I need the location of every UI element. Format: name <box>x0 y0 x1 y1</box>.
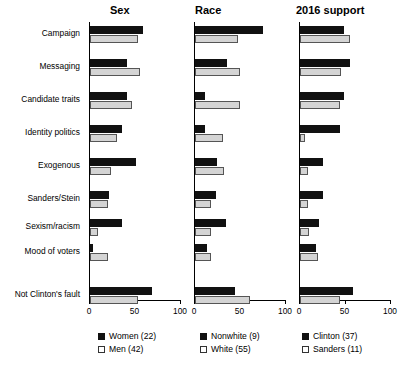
category-label: Sexism/racism <box>26 222 80 231</box>
category-label: Candidate traits <box>21 95 80 104</box>
bar <box>300 228 309 236</box>
legend-swatch-icon <box>98 333 105 340</box>
bar <box>90 200 108 208</box>
legend-item[interactable]: Women (22) <box>98 330 156 343</box>
panel-title: 2016 support <box>296 4 364 16</box>
legend-column: Clinton (37)Sanders (11) <box>302 330 362 356</box>
legend-item[interactable]: Nonwhite (9) <box>200 330 260 343</box>
legend-label: Sanders (11) <box>313 344 362 354</box>
x-axis-tick <box>345 300 346 304</box>
bar <box>90 228 98 236</box>
category-axis-labels: CampaignMessagingCandidate traitsIdentit… <box>0 22 84 300</box>
bar <box>90 68 140 76</box>
chart-panel: Race050100 <box>189 0 307 330</box>
x-axis-tick-label: 50 <box>235 306 244 316</box>
bar <box>300 287 353 295</box>
bar <box>300 68 341 76</box>
bar <box>300 35 350 43</box>
bar <box>90 167 111 175</box>
bar <box>195 59 227 67</box>
x-axis-tick-label: 50 <box>340 306 349 316</box>
chart-legend: Women (22)Men (42)Nonwhite (9)White (55)… <box>0 330 401 364</box>
panel-title: Race <box>195 4 221 16</box>
bar <box>195 200 211 208</box>
x-axis-tick-label: 0 <box>87 306 92 316</box>
bar <box>300 92 344 100</box>
bar <box>90 158 136 166</box>
x-axis-tick-label: 100 <box>383 306 397 316</box>
bar <box>195 101 240 109</box>
bar <box>300 244 316 252</box>
legend-swatch-icon <box>200 346 207 353</box>
legend-item[interactable]: White (55) <box>200 343 260 356</box>
bar <box>90 92 127 100</box>
bar <box>195 134 223 142</box>
legend-swatch-icon <box>98 346 105 353</box>
bar <box>90 296 138 304</box>
bar <box>195 35 238 43</box>
bar <box>195 296 250 304</box>
bar <box>300 158 323 166</box>
bar <box>300 191 323 199</box>
bar <box>90 244 93 252</box>
bar <box>300 134 305 142</box>
bar <box>90 101 132 109</box>
bar <box>300 101 340 109</box>
bar <box>300 59 350 67</box>
bar <box>90 287 152 295</box>
legend-column: Nonwhite (9)White (55) <box>200 330 260 356</box>
legend-label: White (55) <box>211 344 251 354</box>
category-label: Identity politics <box>25 128 80 137</box>
bar <box>195 191 216 199</box>
chart-panel: 2016 support050100 <box>294 0 401 330</box>
bar <box>90 35 138 43</box>
bar <box>195 287 235 295</box>
legend-swatch-icon <box>200 333 207 340</box>
bar <box>195 26 263 34</box>
bar <box>195 92 205 100</box>
bar <box>300 167 308 175</box>
bar <box>300 296 340 304</box>
legend-item[interactable]: Men (42) <box>98 343 156 356</box>
chart-panel: Sex050100 <box>84 0 202 330</box>
category-label: Campaign <box>42 29 80 38</box>
x-axis-tick-label: 50 <box>130 306 139 316</box>
panel-title: Sex <box>110 4 130 16</box>
bar <box>300 219 319 227</box>
bar <box>195 125 205 133</box>
bar <box>195 228 211 236</box>
category-label: Exogenous <box>38 161 80 170</box>
bar <box>195 158 217 166</box>
bar <box>300 125 340 133</box>
figure-root: CampaignMessagingCandidate traitsIdentit… <box>0 0 401 367</box>
bar <box>195 68 240 76</box>
legend-item[interactable]: Clinton (37) <box>302 330 362 343</box>
bar <box>300 26 344 34</box>
plot-area: 050100 <box>89 22 185 300</box>
category-label: Mood of voters <box>25 247 80 256</box>
x-axis-tick <box>390 300 391 304</box>
legend-swatch-icon <box>302 346 309 353</box>
bar <box>195 167 224 175</box>
bar <box>300 200 308 208</box>
x-axis-tick <box>285 300 286 304</box>
bar <box>195 219 226 227</box>
x-axis-tick-label: 0 <box>192 306 197 316</box>
legend-item[interactable]: Sanders (11) <box>302 343 362 356</box>
bar <box>90 219 122 227</box>
x-axis-tick-label: 0 <box>297 306 302 316</box>
legend-label: Nonwhite (9) <box>211 331 260 341</box>
x-axis-tick-label: 100 <box>173 306 187 316</box>
plot-area: 050100 <box>299 22 395 300</box>
plot-area: 050100 <box>194 22 290 300</box>
x-axis-tick <box>180 300 181 304</box>
bar <box>90 26 143 34</box>
legend-swatch-icon <box>302 333 309 340</box>
bar <box>90 191 109 199</box>
bar <box>195 253 211 261</box>
bar <box>90 253 108 261</box>
bar <box>90 134 117 142</box>
bar <box>90 59 127 67</box>
legend-label: Clinton (37) <box>313 331 357 341</box>
bar <box>195 244 207 252</box>
